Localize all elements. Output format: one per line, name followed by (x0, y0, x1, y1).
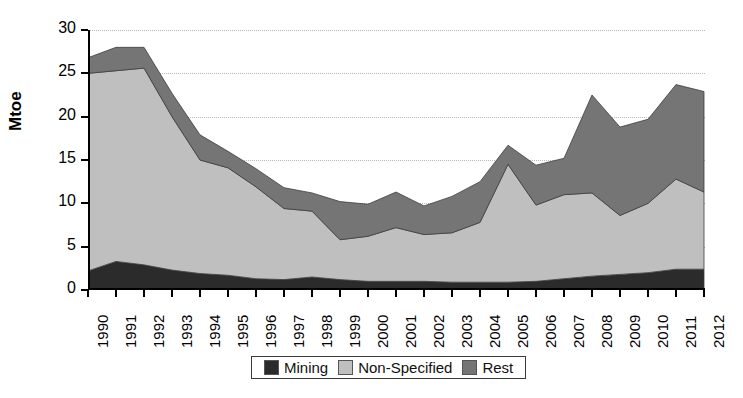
x-tick-mark (507, 290, 509, 297)
x-tick-label: 1998 (318, 315, 335, 348)
y-tick-mark (81, 72, 88, 74)
x-tick-mark (479, 290, 481, 297)
x-tick-label: 1997 (290, 315, 307, 348)
x-tick-label: 1999 (346, 315, 363, 348)
x-tick-label: 1991 (122, 315, 139, 348)
x-tick-mark (423, 290, 425, 297)
y-tick-label: 10 (36, 192, 76, 210)
y-tick-label: 0 (36, 279, 76, 297)
chart-figure: Mtoe 051015202530 1990199119921993199419… (0, 0, 743, 398)
x-tick-label: 2008 (598, 315, 615, 348)
y-axis-title: Mtoe (6, 11, 26, 131)
x-tick-mark (199, 290, 201, 297)
legend-swatch-icon (338, 360, 353, 375)
chart-legend: MiningNon-SpecifiedRest (251, 356, 526, 379)
x-tick-mark (227, 290, 229, 297)
legend-item[interactable]: Non-Specified (338, 359, 452, 376)
x-tick-mark (311, 290, 313, 297)
y-tick-label: 15 (36, 149, 76, 167)
x-tick-mark (283, 290, 285, 297)
x-tick-mark (339, 290, 341, 297)
x-tick-mark (451, 290, 453, 297)
x-tick-label: 2002 (430, 315, 447, 348)
y-tick-mark (81, 202, 88, 204)
x-tick-label: 1992 (150, 315, 167, 348)
x-tick-mark (675, 290, 677, 297)
y-tick-mark (81, 159, 88, 161)
y-tick-mark (81, 116, 88, 118)
x-tick-label: 1993 (178, 315, 195, 348)
x-tick-label: 2003 (458, 315, 475, 348)
y-tick-label: 20 (36, 106, 76, 124)
x-tick-mark (703, 290, 705, 297)
x-tick-label: 2001 (402, 315, 419, 348)
x-tick-mark (87, 290, 89, 297)
x-tick-label: 1995 (234, 315, 251, 348)
x-tick-label: 2006 (542, 315, 559, 348)
x-tick-label: 2000 (374, 315, 391, 348)
x-tick-label: 1996 (262, 315, 279, 348)
x-tick-mark (591, 290, 593, 297)
x-tick-label: 1990 (94, 315, 111, 348)
y-tick-label: 25 (36, 62, 76, 80)
legend-item[interactable]: Mining (264, 359, 328, 376)
x-tick-mark (367, 290, 369, 297)
legend-swatch-icon (462, 360, 477, 375)
x-tick-mark (619, 290, 621, 297)
x-tick-label: 1994 (206, 315, 223, 348)
x-tick-label: 2007 (570, 315, 587, 348)
x-tick-label: 2009 (626, 315, 643, 348)
x-tick-mark (255, 290, 257, 297)
legend-label: Rest (482, 359, 513, 376)
x-tick-label: 2011 (682, 316, 699, 348)
legend-label: Non-Specified (358, 359, 452, 376)
x-tick-label: 2004 (486, 315, 503, 348)
y-tick-mark (81, 29, 88, 31)
legend-label: Mining (284, 359, 328, 376)
x-tick-label: 2005 (514, 315, 531, 348)
y-tick-mark (81, 246, 88, 248)
y-tick-label: 30 (36, 19, 76, 37)
x-tick-label: 2010 (654, 315, 671, 348)
x-tick-mark (563, 290, 565, 297)
x-tick-mark (143, 290, 145, 297)
x-tick-mark (535, 290, 537, 297)
x-tick-mark (115, 290, 117, 297)
x-tick-mark (395, 290, 397, 297)
plot-area: 051015202530 (88, 30, 705, 290)
y-tick-label: 5 (36, 236, 76, 254)
stacked-area-series (88, 30, 705, 290)
x-tick-mark (171, 290, 173, 297)
legend-item[interactable]: Rest (462, 359, 513, 376)
y-axis-line (88, 30, 90, 290)
legend-swatch-icon (264, 360, 279, 375)
x-tick-label: 2012 (710, 315, 727, 348)
x-tick-mark (647, 290, 649, 297)
